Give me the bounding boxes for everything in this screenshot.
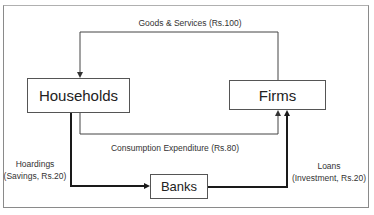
goods-services-label: Goods & Services (Rs.100) (130, 17, 250, 29)
firms-label: Firms (259, 87, 297, 104)
hoardings-value: (Savings, Rs.20) (0, 170, 70, 182)
consumption-arrow (80, 112, 278, 134)
households-label: Households (39, 87, 118, 104)
loans-title: Loans (288, 160, 370, 172)
loans-label: Loans (Investment, Rs.20) (288, 160, 370, 184)
banks-label: Banks (161, 179, 197, 194)
consumption-label: Consumption Expenditure (Rs.80) (105, 142, 245, 154)
hoardings-title: Hoardings (0, 158, 70, 170)
households-node: Households (27, 78, 130, 113)
goods-services-arrow (80, 32, 278, 80)
loans-value: (Investment, Rs.20) (288, 172, 370, 184)
firms-node: Firms (229, 80, 326, 110)
banks-node: Banks (150, 174, 208, 199)
hoardings-label: Hoardings (Savings, Rs.20) (0, 158, 70, 182)
